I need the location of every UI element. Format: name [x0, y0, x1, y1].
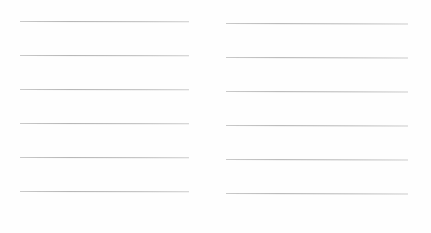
writing-line-right-5 — [226, 159, 408, 160]
writing-line-right-2 — [226, 57, 408, 58]
writing-line-left-4 — [20, 123, 189, 124]
writing-line-right-6 — [226, 193, 408, 194]
writing-line-left-6 — [20, 191, 189, 192]
writing-line-left-5 — [20, 157, 189, 158]
writing-line-left-1 — [20, 21, 189, 22]
writing-line-left-3 — [20, 89, 189, 90]
writing-line-left-2 — [20, 55, 189, 56]
writing-line-right-3 — [226, 91, 408, 92]
blank-ruled-page — [0, 0, 431, 233]
writing-line-right-1 — [226, 23, 408, 24]
writing-line-right-4 — [226, 125, 408, 126]
